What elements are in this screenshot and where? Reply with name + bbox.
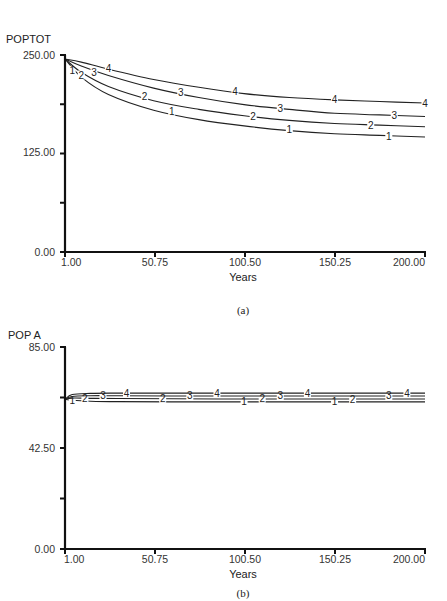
series-4-marker: 4 [124, 388, 130, 399]
series-4-marker: 4 [422, 98, 428, 109]
series-4-line [65, 59, 425, 103]
series-4-marker: 4 [232, 86, 238, 97]
series-2-marker: 2 [350, 394, 356, 405]
series-3-marker: 3 [100, 390, 106, 401]
series-1-marker: 1 [332, 396, 338, 407]
chart-b-xtick-4: 200.00 [393, 553, 425, 565]
chart-a-xtick-3: 150.25 [319, 256, 351, 268]
series-3-marker: 3 [187, 390, 193, 401]
chart-a-ytick-bottom: 0.00 [35, 246, 56, 258]
series-2-marker: 2 [79, 70, 85, 81]
series-2-line [65, 59, 425, 127]
series-3-line [65, 59, 425, 117]
figure: POPTOT 1111222233334444 250.00 125.00 0.… [0, 0, 447, 601]
chart-a-ytick-mid: 125.00 [23, 146, 55, 158]
chart-a-xtick-4: 200.00 [393, 256, 425, 268]
series-4-marker: 4 [106, 63, 112, 74]
chart-b-xtick-1: 50.75 [142, 553, 168, 565]
series-2-marker: 2 [368, 120, 374, 131]
chart-b: POP A 111222233334444 85.00 42.50 0.00 1… [8, 329, 425, 600]
chart-b-curves: 111222233334444 [65, 388, 425, 408]
chart-b-ytick-top: 85.00 [29, 341, 55, 353]
chart-b-ytick-bottom: 0.00 [35, 543, 56, 555]
chart-a-curves: 1111222233334444 [65, 59, 429, 142]
series-3-marker: 3 [178, 87, 184, 98]
chart-a-ytick-top: 250.00 [23, 49, 55, 61]
series-3-marker: 3 [277, 390, 283, 401]
series-2-marker: 2 [142, 91, 148, 102]
series-1-marker: 1 [386, 131, 392, 142]
series-1-marker: 1 [241, 396, 247, 407]
series-3-marker: 3 [91, 67, 97, 78]
series-2-marker: 2 [82, 393, 88, 404]
chart-a-xtick-0: 1.00 [61, 256, 82, 268]
chart-a-caption: (a) [237, 304, 250, 317]
series-4-marker: 4 [404, 388, 410, 399]
series-4-marker: 4 [332, 94, 338, 105]
chart-a-ticks [60, 55, 425, 257]
chart-a-xlabel: Years [229, 271, 257, 283]
series-1-marker: 1 [169, 106, 175, 117]
series-3-marker: 3 [391, 110, 397, 121]
chart-a-xtick-2: 100.50 [229, 256, 261, 268]
chart-b-title: POP A [8, 329, 41, 341]
series-3-marker: 3 [386, 390, 392, 401]
chart-a-title: POPTOT [6, 33, 51, 45]
series-2-marker: 2 [259, 393, 265, 404]
chart-b-xtick-3: 150.25 [319, 553, 351, 565]
series-3-marker: 3 [277, 103, 283, 114]
chart-b-xtick-2: 100.50 [229, 553, 261, 565]
chart-b-xlabel: Years [229, 568, 257, 580]
series-4-marker: 4 [305, 388, 311, 399]
chart-a: POPTOT 1111222233334444 250.00 125.00 0.… [6, 33, 429, 317]
series-1-marker: 1 [287, 124, 293, 135]
chart-b-xtick-0: 1.00 [64, 553, 85, 565]
series-2-marker: 2 [250, 111, 256, 122]
chart-b-caption: (b) [237, 587, 250, 600]
series-4-marker: 4 [214, 388, 220, 399]
series-2-marker: 2 [160, 393, 166, 404]
chart-b-ticks [60, 347, 425, 554]
chart-b-ytick-mid: 42.50 [29, 442, 55, 454]
chart-a-xtick-1: 50.75 [142, 256, 168, 268]
